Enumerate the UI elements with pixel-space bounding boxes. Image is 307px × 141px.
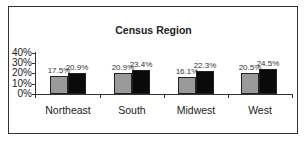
x-tick: [35, 94, 36, 98]
y-tick-label: 40%: [12, 48, 32, 58]
bar: [68, 73, 86, 94]
chart-title: Census Region: [0, 24, 307, 36]
bar: [241, 73, 259, 94]
bar: [50, 76, 68, 94]
bar: [132, 70, 150, 94]
y-tick-label: 10%: [12, 79, 32, 89]
y-tick-label: 20%: [12, 68, 32, 78]
data-label: 23.4%: [126, 61, 156, 69]
bar: [196, 71, 214, 94]
y-tick: [32, 53, 35, 54]
y-tick-label: 0%: [12, 89, 32, 99]
y-tick: [32, 84, 35, 85]
x-tick: [292, 94, 293, 98]
category-label: Midwest: [164, 104, 228, 116]
y-tick: [32, 63, 35, 64]
bar: [259, 69, 277, 94]
category-label: West: [228, 104, 292, 116]
bar: [178, 77, 196, 94]
category-label: South: [100, 104, 164, 116]
x-tick: [100, 94, 101, 98]
x-tick: [164, 94, 165, 98]
bar: [114, 73, 132, 94]
x-tick: [228, 94, 229, 98]
y-tick: [32, 73, 35, 74]
data-label: 22.3%: [190, 62, 220, 70]
data-label: 20.9%: [62, 64, 92, 72]
y-tick-label: 30%: [12, 58, 32, 68]
y-axis-line: [35, 52, 36, 95]
category-label: Northeast: [36, 104, 100, 116]
data-label: 24.5%: [253, 60, 283, 68]
